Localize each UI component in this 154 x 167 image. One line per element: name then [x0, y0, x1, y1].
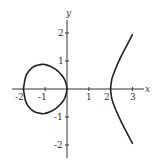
elliptic-curve-chart: -2 -1 1 2 3 2 1 -1 -2 x y [0, 0, 154, 167]
y-axis-label: y [65, 8, 72, 18]
y-tick-label: 2 [58, 28, 64, 38]
x-tick-label: -1 [38, 92, 47, 102]
x-tick-label: 3 [130, 92, 136, 102]
x-tick-label: -2 [15, 92, 24, 102]
y-tick-label: -2 [54, 140, 63, 150]
y-tick-label: 1 [58, 56, 64, 66]
x-tick-label: 2 [104, 92, 110, 102]
x-tick-label: 1 [86, 92, 92, 102]
x-axis-label: x [145, 84, 150, 94]
y-tick-label: -1 [54, 112, 63, 122]
